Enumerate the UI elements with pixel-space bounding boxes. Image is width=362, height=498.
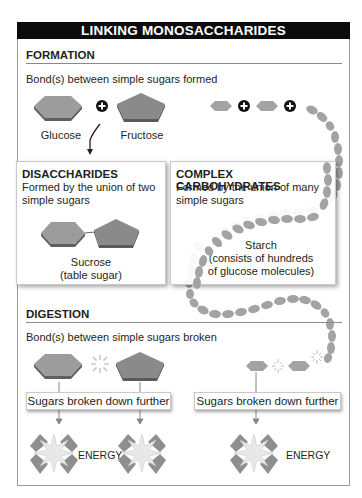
breakdown-label-right: Sugars broken down further — [194, 392, 341, 410]
energy-burst-icon — [114, 428, 170, 478]
energy-burst-icon — [26, 428, 82, 478]
energy-label-right: ENERGY — [286, 449, 330, 461]
energy-burst-icon — [226, 428, 282, 478]
breakdown-label-left: Sugars broken down further — [26, 392, 171, 410]
breakdown-arrows-icon — [0, 0, 362, 498]
